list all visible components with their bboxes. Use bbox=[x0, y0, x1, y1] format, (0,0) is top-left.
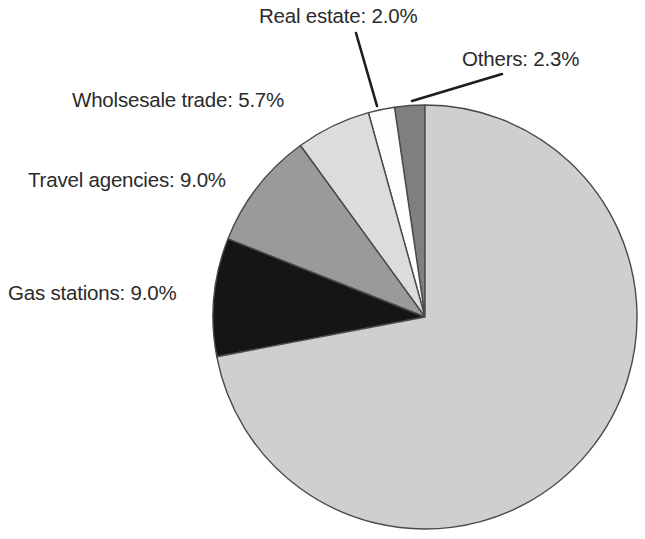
slice-label-others: Others: 2.3% bbox=[462, 49, 579, 70]
slice-label-real-estate: Real estate: 2.0% bbox=[259, 6, 417, 27]
pie-chart-svg bbox=[0, 0, 645, 539]
slice-label-wholesale-trade: Wholsesale trade: 5.7% bbox=[72, 90, 284, 111]
slice-label-travel-agencies: Travel agencies: 9.0% bbox=[28, 170, 226, 191]
slice-label-gas-stations: Gas stations: 9.0% bbox=[8, 283, 176, 304]
pie-chart-figure: Real estate: 2.0% Others: 2.3% Wholsesal… bbox=[0, 0, 645, 539]
pie-slices-group bbox=[213, 105, 637, 529]
leader-line-real-estate bbox=[356, 33, 377, 106]
leader-line-others bbox=[412, 74, 502, 101]
